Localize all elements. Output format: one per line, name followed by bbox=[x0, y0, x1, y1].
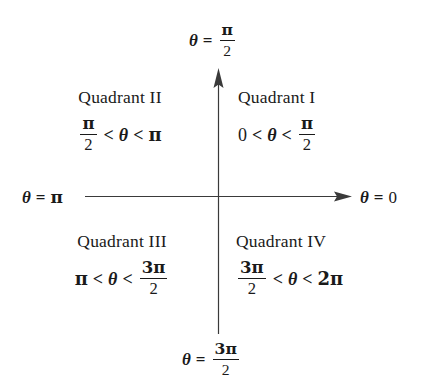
fraction-pi-over-two: π 2 bbox=[80, 115, 96, 154]
quadrant-1-title: Quadrant I bbox=[238, 88, 398, 106]
fraction-denominator: 2 bbox=[140, 280, 168, 298]
fraction-numerator: 3π bbox=[140, 259, 168, 277]
less-than-operator: < bbox=[268, 270, 288, 288]
fraction-pi-over-two: π 2 bbox=[220, 22, 235, 59]
theta-symbol: θ bbox=[108, 270, 117, 288]
less-than-operator: < bbox=[88, 270, 108, 288]
theta-symbol: θ bbox=[22, 189, 31, 206]
theta-symbol: θ bbox=[360, 189, 369, 206]
zero-value: 0 bbox=[389, 189, 398, 206]
quadrant-diagram: θ= π 2 θ=π θ=0 θ= 3π 2 Quadrant II π 2 <… bbox=[0, 0, 434, 388]
fraction-numerator: 3π bbox=[213, 341, 239, 358]
fraction-denominator: 2 bbox=[299, 136, 315, 154]
quadrant-4-title: Quadrant IV bbox=[236, 232, 416, 250]
fraction-denominator: 2 bbox=[80, 136, 96, 154]
fraction-numerator: π bbox=[220, 22, 235, 39]
pi-symbol: π bbox=[51, 189, 63, 206]
pi-symbol: π bbox=[148, 126, 161, 144]
less-than-operator: < bbox=[277, 126, 297, 144]
fraction-three-pi-over-two: 3π 2 bbox=[140, 259, 168, 298]
equals-sign: = bbox=[198, 32, 218, 49]
equals-sign: = bbox=[369, 189, 389, 206]
quadrant-1-block: Quadrant I 0<θ< π 2 bbox=[238, 88, 398, 154]
equals-sign: = bbox=[191, 351, 211, 368]
fraction-denominator: 2 bbox=[213, 361, 239, 378]
quadrant-2-title: Quadrant II bbox=[40, 88, 200, 106]
axis-label-bottom: θ= 3π 2 bbox=[182, 341, 241, 378]
less-than-operator: < bbox=[99, 126, 119, 144]
fraction-bar bbox=[213, 359, 239, 360]
theta-symbol: θ bbox=[288, 270, 297, 288]
axis-label-left: θ=π bbox=[22, 187, 63, 206]
quadrant-2-block: Quadrant II π 2 <θ<π bbox=[40, 88, 200, 154]
fraction-numerator: 3π bbox=[238, 259, 266, 277]
quadrant-3-title: Quadrant III bbox=[38, 232, 206, 250]
fraction-denominator: 2 bbox=[238, 280, 266, 298]
quadrant-1-inequality: 0<θ< π 2 bbox=[238, 115, 398, 154]
two-pi-symbol: 2π bbox=[318, 270, 344, 288]
less-than-operator: < bbox=[128, 126, 148, 144]
equals-sign: = bbox=[31, 189, 51, 206]
fraction-numerator: π bbox=[299, 115, 315, 133]
less-than-operator: < bbox=[297, 270, 317, 288]
quadrant-4-block: Quadrant IV 3π 2 <θ<2π bbox=[236, 232, 416, 298]
theta-symbol: θ bbox=[189, 32, 198, 49]
pi-symbol: π bbox=[75, 270, 88, 288]
theta-symbol: θ bbox=[182, 351, 191, 368]
fraction-three-pi-over-two: 3π 2 bbox=[213, 341, 239, 378]
zero-value: 0 bbox=[238, 126, 247, 144]
fraction-bar bbox=[220, 40, 235, 41]
fraction-numerator: π bbox=[80, 115, 96, 133]
theta-symbol: θ bbox=[119, 126, 128, 144]
less-than-operator: < bbox=[117, 270, 137, 288]
fraction-denominator: 2 bbox=[220, 42, 235, 59]
fraction-pi-over-two: π 2 bbox=[299, 115, 315, 154]
axis-label-top: θ= π 2 bbox=[189, 22, 237, 59]
axis-label-right: θ=0 bbox=[360, 187, 397, 206]
theta-symbol: θ bbox=[267, 126, 276, 144]
quadrant-4-inequality: 3π 2 <θ<2π bbox=[236, 259, 416, 298]
quadrant-3-block: Quadrant III π<θ< 3π 2 bbox=[38, 232, 206, 298]
quadrant-2-inequality: π 2 <θ<π bbox=[40, 115, 200, 154]
fraction-three-pi-over-two: 3π 2 bbox=[238, 259, 266, 298]
less-than-operator: < bbox=[247, 126, 267, 144]
quadrant-3-inequality: π<θ< 3π 2 bbox=[38, 259, 206, 298]
